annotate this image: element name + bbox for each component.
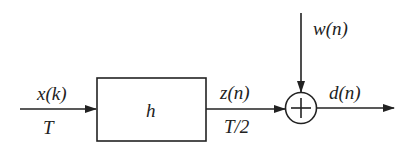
summing-junction <box>286 93 317 124</box>
noise-signal-label: w(n) <box>313 18 348 40</box>
block-diagram: x(k) T h z(n) T/2 w(n) d(n) <box>0 0 412 153</box>
intermediate-signal-label: z(n) <box>219 82 250 104</box>
input-signal-label: x(k) <box>36 83 67 105</box>
input-rate-label: T <box>43 117 55 138</box>
filter-block-label: h <box>146 100 156 121</box>
output-signal-label: d(n) <box>329 82 361 104</box>
intermediate-rate-label: T/2 <box>224 116 250 137</box>
